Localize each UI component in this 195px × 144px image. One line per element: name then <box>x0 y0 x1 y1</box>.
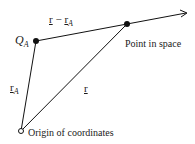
label-q-a: QA <box>15 34 29 46</box>
q-letter: Q <box>15 33 24 47</box>
subscript: A <box>14 87 19 96</box>
minus-sign: − <box>53 13 65 25</box>
diagram-canvas <box>0 0 195 144</box>
point-in-space-icon <box>124 21 130 27</box>
q-a-point-icon <box>33 38 39 44</box>
label-r-minus-ra: r − rA <box>49 14 73 25</box>
vec-r: r <box>84 82 88 94</box>
subscript: A <box>68 19 73 28</box>
label-point-in-space: Point in space <box>125 39 181 49</box>
label-r: r <box>84 83 88 94</box>
label-origin: Origin of coordinates <box>28 128 114 138</box>
subscript: A <box>24 40 29 49</box>
origin-point-icon <box>19 129 24 134</box>
label-r-a: rA <box>10 82 19 93</box>
